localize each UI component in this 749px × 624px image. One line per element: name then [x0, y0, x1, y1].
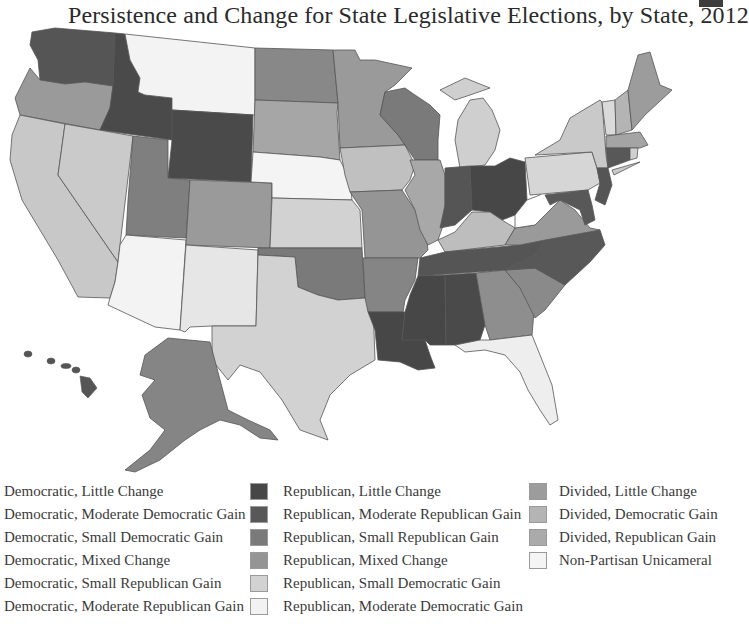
state-io — [340, 145, 415, 192]
state-nd — [255, 48, 338, 103]
legend-swatch — [250, 575, 268, 592]
state-ks — [270, 198, 362, 248]
state-nm — [180, 245, 258, 332]
legend-label: Divided, Republican Gain — [559, 526, 716, 549]
legend-swatch — [529, 506, 547, 523]
state-ct — [606, 148, 630, 168]
legend-swatch — [250, 506, 268, 523]
us-state-map — [0, 0, 723, 480]
legend-label: Republican, Little Change — [283, 480, 441, 503]
legend-label: Democratic, Small Republican Gain — [4, 572, 221, 595]
state-hi — [24, 351, 97, 398]
legend-label: Divided, Little Change — [559, 480, 697, 503]
state-wa — [30, 28, 115, 86]
legend-label: Democratic, Moderate Republican Gain — [4, 595, 244, 618]
legend-label: Non-Partisan Unicameral — [559, 549, 712, 572]
legend-swatch — [250, 552, 268, 569]
legend-swatch — [529, 483, 547, 500]
legend-swatch — [529, 529, 547, 546]
legend-swatch — [250, 598, 268, 615]
legend-label: Republican, Moderate Republican Gain — [283, 503, 521, 526]
state-wy — [168, 110, 253, 182]
legend-swatch — [250, 483, 268, 500]
legend-swatch — [529, 552, 547, 569]
state-mi — [440, 78, 500, 168]
legend-label: Republican, Small Democratic Gain — [283, 572, 500, 595]
legend-label: Democratic, Moderate Democratic Gain — [4, 503, 246, 526]
legend-swatch — [250, 529, 268, 546]
legend: Democratic, Little Change Democratic, Mo… — [0, 480, 723, 624]
legend-label: Republican, Small Republican Gain — [283, 526, 499, 549]
legend-label: Democratic, Little Change — [4, 480, 164, 503]
state-me — [628, 52, 672, 130]
legend-label: Democratic, Small Democratic Gain — [4, 526, 223, 549]
state-sd — [253, 100, 340, 160]
state-ri — [630, 148, 638, 160]
legend-label: Divided, Democratic Gain — [559, 503, 718, 526]
legend-label: Republican, Mixed Change — [283, 549, 448, 572]
legend-label: Republican, Moderate Democratic Gain — [283, 595, 523, 618]
state-co — [186, 180, 272, 248]
state-pa — [525, 152, 600, 195]
state-az — [108, 235, 186, 330]
legend-label: Democratic, Mixed Change — [4, 549, 170, 572]
state-fl — [455, 335, 558, 425]
